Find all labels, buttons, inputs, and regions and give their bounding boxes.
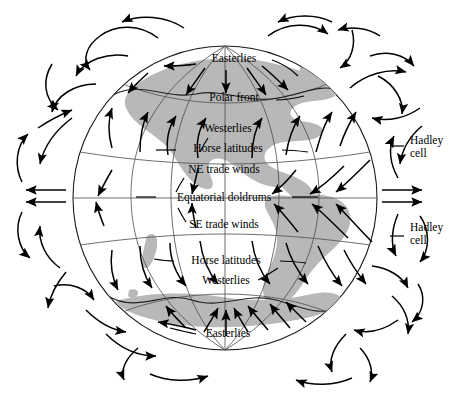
cell-arrow-polar-n-right-ret [340,30,354,68]
label-horse-latitudes-south: Horse latitudes [191,254,261,266]
label-westerlies-north: Westerlies [204,122,252,134]
cell-arrow-polar-n-left-upper [86,27,158,70]
cell-arrow-polar-n-right-over [278,16,332,22]
cell-arrow-polar-s-right-2 [360,348,372,382]
cell-arrow-hadley-s-right-up [372,266,408,288]
cell-arrow-polar-s-right-1 [331,334,346,372]
label-horse-latitudes-north: Horse latitudes [193,142,263,154]
cell-arrow-polar-n-left-top [122,17,184,28]
figure-canvas: Easterlies Polar front Westerlies Horse … [0,0,473,400]
cell-arrow-polar-s-left-3 [150,374,208,380]
label-equatorial-doldrums: Equatorial doldrums [177,191,272,204]
label-easterlies-south: Easterlies [206,327,251,339]
cell-arrow-ferrel-n-right-in [372,108,420,120]
label-hadley-cell-south-line1: Hadley [410,221,443,234]
cell-arrow-ferrel-n-right-up [350,71,406,88]
label-ne-trade-winds: NE trade winds [188,163,260,175]
cell-arrow-ferrel-n-left-in [76,55,128,76]
cell-arrow-hadley-s-right-desc [392,214,398,256]
label-easterlies-north: Easterlies [212,52,257,64]
cell-arrow-polar-s-right-3 [296,378,352,384]
cell-arrow-hadley-s-left-in [48,272,66,308]
cell-arrow-hadley-s-left-down [18,212,30,258]
cell-arrow-polar-s-left-1 [106,334,156,356]
label-se-trade-winds: SE trade winds [189,218,259,230]
cell-arrow-ferrel-s-left-2 [86,310,126,332]
cell-arrow-ferrel-n-right-down [378,76,402,114]
atmospheric-circulation-diagram: Easterlies Polar front Westerlies Horse … [0,0,473,400]
label-hadley-cell-south-line2: cell [410,234,427,246]
label-hadley-cell-north-line2: cell [410,147,427,159]
cell-arrow-hadley-n-left-down [40,118,72,164]
cell-arrow-ferrel-s-right-1 [412,284,423,322]
cell-arrow-hadley-n-left-rise [17,134,28,182]
cell-arrow-ferrel-s-right-2 [392,296,408,334]
cell-arrow-polar-n-right-up [268,25,328,36]
cell-arrow-ferrel-n-left-mid [52,84,96,112]
cell-arrow-ferrel-s-right-3 [354,320,398,332]
label-polar-front-north: Polar front [209,91,259,103]
cell-arrow-ferrel-n-right-over [370,53,414,66]
label-hadley-cell-north-line1: Hadley [410,134,443,147]
label-westerlies-south: Westerlies [202,274,250,286]
cell-arrow-hadley-n-left-return [38,110,72,128]
cell-arrow-hadley-s-left-up [40,226,60,268]
cell-arrow-ferrel-s-left-1 [54,285,94,300]
cell-arrow-hadley-n-right-rise [391,136,398,178]
cell-arrow-polar-n-right-in [338,28,380,36]
